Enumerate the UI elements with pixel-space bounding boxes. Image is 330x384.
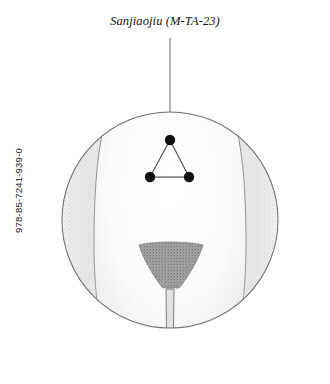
anatomy-illustration — [0, 0, 330, 384]
acupoint-marker-apex[interactable] — [165, 135, 175, 145]
figure-page: 978-85-7241-939-0 Sanjiaojiu (M-TA-23) — [0, 0, 330, 384]
left-stipple-shading — [62, 112, 132, 368]
acupoint-marker-bottom-right[interactable] — [184, 172, 194, 182]
median-cleft — [166, 289, 174, 370]
acupoint-marker-bottom-left[interactable] — [145, 172, 155, 182]
right-stipple-shading — [208, 112, 278, 368]
circular-inset-contents — [56, 82, 284, 378]
